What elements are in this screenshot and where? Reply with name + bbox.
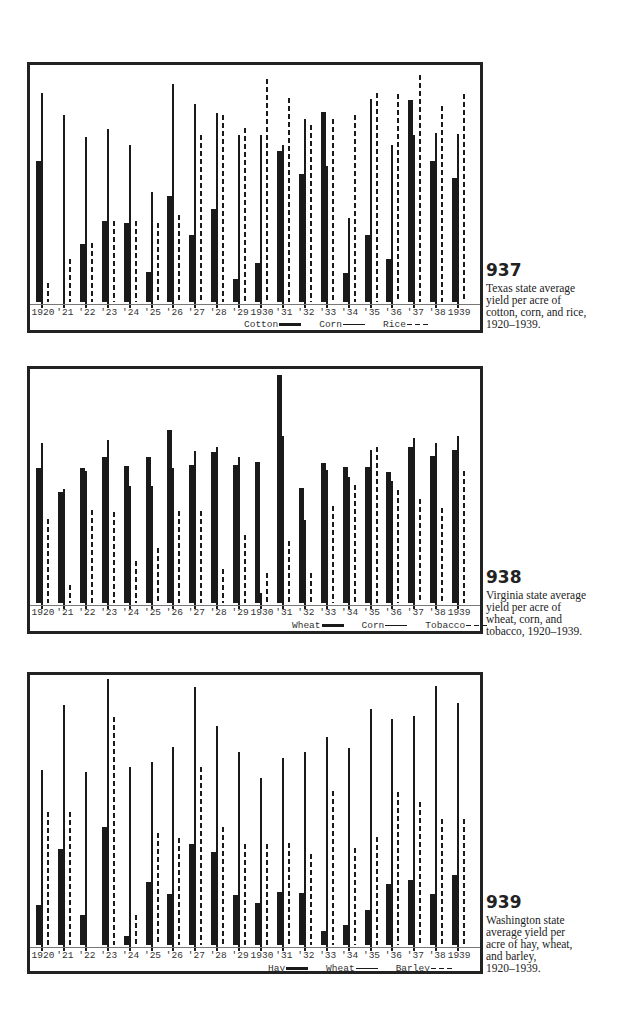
bar-barley	[354, 848, 356, 945]
bar-rice	[91, 243, 93, 302]
bar-rice	[113, 221, 115, 302]
figure-number: 937	[486, 260, 626, 280]
bar-barley	[113, 717, 115, 945]
legend-swatch	[286, 967, 308, 970]
x-tick-label: 1939	[444, 307, 474, 318]
bar-wheat	[370, 709, 372, 951]
bar-wheat	[216, 726, 218, 951]
bar-corn	[260, 135, 262, 308]
figure-caption: Washington state average yield per acre …	[486, 914, 626, 974]
bar-barley	[397, 792, 399, 945]
bar-tobacco	[419, 499, 421, 603]
bar-barley	[200, 767, 202, 945]
x-axis-line	[30, 947, 480, 948]
bar-barley	[266, 844, 268, 945]
bar-wheat	[63, 705, 65, 951]
legend-label: Rice	[383, 319, 406, 330]
bar-tobacco	[200, 511, 202, 603]
bar-corn	[41, 93, 43, 308]
bar-rice	[463, 94, 465, 302]
bar-tobacco	[463, 471, 465, 603]
bar-wheat	[326, 737, 328, 951]
bar-corn	[457, 436, 459, 609]
bar-tobacco	[441, 508, 443, 603]
bar-tobacco	[91, 510, 93, 603]
bar-rice	[244, 128, 246, 302]
bar-rice	[69, 259, 71, 302]
bar-corn	[172, 84, 174, 308]
bar-barley	[376, 837, 378, 945]
bar-barley	[222, 827, 224, 945]
bar-barley	[47, 812, 49, 945]
legend-swatch	[279, 323, 301, 326]
bar-corn	[216, 447, 218, 609]
bar-tobacco	[354, 485, 356, 603]
bar-wheat	[151, 762, 153, 951]
plot-area	[30, 65, 480, 330]
caption-939: 939 Washington state average yield per a…	[486, 892, 626, 974]
bar-corn	[63, 489, 65, 609]
bar-corn	[41, 443, 43, 609]
figure-caption: Virginia state average yield per acre of…	[486, 589, 626, 637]
bar-rice	[178, 215, 180, 302]
bar-corn	[129, 486, 131, 609]
legend: HayWheatBarley	[268, 963, 453, 974]
bar-wheat	[107, 679, 109, 951]
bar-corn	[413, 135, 415, 308]
bar-barley	[178, 838, 180, 945]
bar-barley	[69, 812, 71, 945]
legend-label: Wheat	[326, 963, 355, 974]
legend: WheatCornTobacco	[292, 620, 488, 631]
bar-corn	[85, 471, 87, 609]
bar-corn	[107, 440, 109, 609]
bar-corn	[282, 145, 284, 308]
caption-938: 938 Virginia state average yield per acr…	[486, 567, 626, 637]
bar-barley	[463, 819, 465, 945]
bar-corn	[326, 470, 328, 609]
legend-item-wheat: Wheat	[326, 963, 378, 974]
bar-tobacco	[69, 585, 71, 603]
bar-corn	[304, 520, 306, 609]
legend-label: Corn	[319, 319, 342, 330]
bar-rice	[288, 98, 290, 302]
bar-corn	[194, 451, 196, 609]
chart-frame-937: CottonCornRice 1920'21'22'23'24'25'26'27…	[27, 62, 483, 333]
x-tick-label: 1939	[444, 950, 474, 961]
bar-corn	[391, 481, 393, 609]
legend-item-cotton: Cotton	[244, 319, 301, 330]
bar-barley	[419, 802, 421, 945]
legend-swatch	[407, 324, 429, 325]
legend-swatch	[431, 968, 453, 969]
bar-rice	[135, 221, 137, 302]
legend-swatch	[466, 625, 488, 626]
bar-rice	[310, 125, 312, 302]
bar-tobacco	[222, 569, 224, 603]
bar-wheat	[172, 747, 174, 951]
bar-corn	[216, 113, 218, 308]
bar-barley	[441, 819, 443, 945]
legend-label: Tobacco	[425, 620, 465, 631]
bar-wheat	[435, 686, 437, 951]
bar-wheat	[255, 462, 260, 603]
caption-937: 937 Texas state average yield per acre o…	[486, 260, 626, 330]
bar-rice	[419, 75, 421, 302]
bar-tobacco	[376, 447, 378, 603]
bar-corn	[63, 115, 65, 308]
figure-number: 938	[486, 567, 626, 587]
bar-tobacco	[135, 561, 137, 603]
bar-corn	[391, 145, 393, 308]
bar-wheat	[413, 716, 415, 951]
bar-wheat	[85, 772, 87, 951]
legend-label: Corn	[362, 620, 385, 631]
legend-item-corn: Corn	[319, 319, 365, 330]
chart-frame-938: WheatCornTobacco 1920'21'22'23'24'25'26'…	[27, 366, 483, 634]
bar-corn	[107, 129, 109, 308]
legend: CottonCornRice	[244, 319, 429, 330]
bar-wheat	[194, 687, 196, 951]
legend-label: Barley	[396, 963, 430, 974]
bar-tobacco	[157, 548, 159, 603]
bar-rice	[47, 283, 49, 302]
bar-corn	[282, 436, 284, 609]
bar-rice	[376, 93, 378, 302]
bar-barley	[332, 791, 334, 945]
